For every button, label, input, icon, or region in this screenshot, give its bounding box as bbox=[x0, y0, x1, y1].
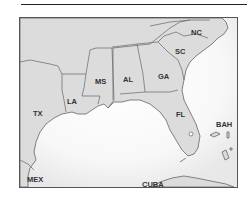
label-fl: FL bbox=[176, 110, 186, 119]
label-bah: BAH bbox=[216, 120, 232, 129]
lake-okeechobee bbox=[189, 132, 193, 136]
label-mex: MEX bbox=[27, 175, 43, 184]
label-ga: GA bbox=[158, 72, 170, 81]
label-sc: SC bbox=[175, 47, 186, 56]
label-cuba: CUBA bbox=[142, 180, 164, 189]
label-al: AL bbox=[123, 75, 133, 84]
label-nc: NC bbox=[191, 28, 202, 37]
label-ms: MS bbox=[95, 77, 106, 86]
southeast-map: NC SC GA AL MS LA TX FL BAH MEX CUBA bbox=[0, 0, 247, 209]
label-tx: TX bbox=[33, 109, 43, 118]
label-la: LA bbox=[67, 97, 78, 106]
